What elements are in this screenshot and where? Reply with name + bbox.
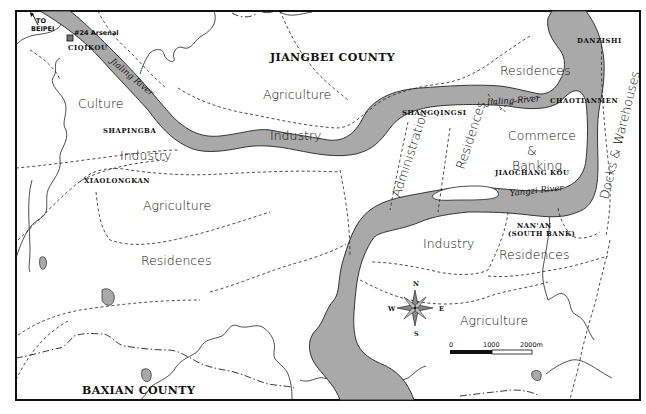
nan-an-label: NAN'AN — [517, 222, 552, 230]
zone-residences-northeast: Residences — [500, 63, 570, 78]
scale-1000: 1000 — [483, 341, 500, 349]
zone-agriculture-west: Agriculture — [143, 198, 211, 213]
arsenal-marker — [67, 35, 73, 41]
zone-industry-west: Industry — [120, 148, 171, 163]
jiangbei-county-label: JIANGBEI COUNTY — [269, 51, 395, 64]
chaotianmen-label: CHAOTIANMEN — [550, 97, 618, 105]
zone-culture: Culture — [78, 96, 124, 111]
zone-residences-west: Residences — [141, 253, 211, 268]
lake — [102, 289, 114, 306]
beipei-label: BEIPEI — [31, 25, 54, 33]
zone-agriculture-south: Agriculture — [460, 313, 528, 328]
compass-rose-icon — [397, 290, 433, 326]
danzishi-label: DANZISHI — [577, 37, 622, 45]
city-zoning-map: TO BEIPEI #24 Arsenal CIQIKOU SHAPINGBA … — [0, 0, 646, 414]
shapingba-label: SHAPINGBA — [103, 127, 156, 135]
xiaolongkan-label: XIAOLONGKAN — [84, 177, 150, 185]
zone-banking: Banking — [512, 158, 562, 173]
compass-n: N — [413, 280, 419, 288]
shangqingsi-label: SHANGQINGSI — [402, 109, 466, 117]
zone-agriculture-north: Agriculture — [263, 87, 331, 102]
scale-bar — [450, 350, 532, 354]
lake — [40, 257, 47, 270]
zone-industry-north: Industry — [270, 128, 321, 143]
zone-residences-south: Residences — [499, 247, 569, 262]
scale-2000m: 2000m — [520, 341, 543, 349]
compass-e: E — [439, 305, 444, 313]
compass-w: W — [387, 305, 396, 313]
scale-0: 0 — [449, 341, 453, 349]
zone-ampersand: & — [527, 143, 537, 158]
arsenal-label: #24 Arsenal — [74, 29, 119, 37]
compass-s: S — [414, 330, 419, 338]
ciqikou-label: CIQIKOU — [68, 44, 107, 52]
lake — [142, 369, 152, 382]
zone-commerce: Commerce — [508, 128, 576, 143]
zone-industry-south: Industry — [423, 236, 474, 251]
baxian-county-label: BAXIAN COUNTY — [82, 384, 195, 397]
river-island — [432, 186, 498, 200]
lake — [532, 370, 542, 380]
to-label: TO — [36, 17, 46, 25]
south-bank-label: (SOUTH BANK) — [508, 230, 575, 238]
zone-docks-warehouses: Docks & Warehouses — [596, 69, 642, 200]
